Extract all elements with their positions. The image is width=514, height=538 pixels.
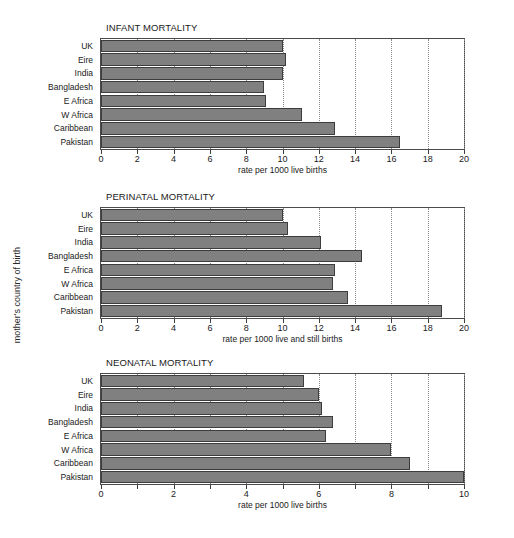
bar-row: [101, 53, 464, 65]
x-tick-label: 2: [171, 489, 176, 499]
bar-w-africa: [101, 443, 391, 455]
plot-area: [100, 373, 465, 485]
chart-title: INFANT MORTALITY: [106, 22, 197, 33]
bar-row: [101, 122, 464, 134]
category-label-pakistan: Pakistan: [60, 472, 93, 482]
category-label-w-africa: W Africa: [61, 279, 93, 289]
category-label-india: India: [75, 403, 93, 413]
x-tick-label: 4: [171, 154, 176, 164]
bar-bangladesh: [101, 81, 264, 93]
bar-row: [101, 81, 464, 93]
category-label-uk: UK: [81, 41, 93, 51]
bar-pakistan: [101, 471, 464, 483]
x-tick-label: 8: [244, 154, 249, 164]
x-tick-label: 12: [314, 154, 324, 164]
bar-uk: [101, 40, 283, 52]
bar-eire: [101, 388, 319, 400]
x-tick-label: 10: [459, 489, 469, 499]
bar-row: [101, 236, 464, 248]
x-tick-label: 2: [135, 323, 140, 333]
x-axis-title: rate per 1000 live and still births: [100, 334, 465, 344]
bar-caribbean: [101, 291, 348, 303]
bar-w-africa: [101, 277, 333, 289]
x-tick-label: 10: [277, 154, 287, 164]
gridline: [464, 208, 465, 318]
x-tick-label: 2: [135, 154, 140, 164]
bar-row: [101, 402, 464, 414]
x-tick-label: 10: [277, 323, 287, 333]
x-tick-label: 16: [386, 154, 396, 164]
category-label-india: India: [75, 237, 93, 247]
bar-series: [101, 374, 464, 484]
bar-row: [101, 430, 464, 442]
category-label-uk: UK: [81, 210, 93, 220]
x-tick-label: 14: [350, 323, 360, 333]
bar-row: [101, 264, 464, 276]
bar-eire: [101, 53, 286, 65]
category-label-bangladesh: Bangladesh: [48, 82, 93, 92]
category-label-india: India: [75, 68, 93, 78]
category-label-caribbean: Caribbean: [54, 458, 93, 468]
bar-e-africa: [101, 264, 335, 276]
x-tick-label: 6: [207, 154, 212, 164]
bar-india: [101, 402, 322, 414]
bar-india: [101, 67, 283, 79]
bar-row: [101, 40, 464, 52]
bar-india: [101, 236, 321, 248]
bar-row: [101, 67, 464, 79]
bar-row: [101, 209, 464, 221]
plot-area: [100, 207, 465, 319]
x-tick-label: 18: [423, 154, 433, 164]
mortality-figure: mother's country of birth INFANT MORTALI…: [0, 0, 514, 538]
category-axis-labels: UKEireIndiaBangladeshE AfricaW AfricaCar…: [0, 207, 96, 319]
x-tick-label: 20: [459, 323, 469, 333]
bar-row: [101, 305, 464, 317]
bar-row: [101, 388, 464, 400]
x-tick-label: 14: [350, 154, 360, 164]
bar-row: [101, 375, 464, 387]
x-tick-label: 12: [314, 323, 324, 333]
bar-row: [101, 443, 464, 455]
bar-row: [101, 416, 464, 428]
x-tick-label: 0: [98, 154, 103, 164]
x-tick-label: 18: [423, 323, 433, 333]
bar-eire: [101, 222, 288, 234]
x-tick-label: 16: [386, 323, 396, 333]
bar-row: [101, 222, 464, 234]
category-label-eire: Eire: [78, 224, 93, 234]
gridline: [464, 39, 465, 149]
bar-row: [101, 250, 464, 262]
plot-area: [100, 38, 465, 150]
bar-bangladesh: [101, 416, 333, 428]
bar-e-africa: [101, 430, 326, 442]
bar-row: [101, 471, 464, 483]
x-tick-label: 4: [171, 323, 176, 333]
x-axis-title: rate per 1000 live births: [100, 500, 465, 510]
x-tick-label: 0: [98, 489, 103, 499]
bar-bangladesh: [101, 250, 362, 262]
x-tick-label: 6: [316, 489, 321, 499]
category-label-uk: UK: [81, 376, 93, 386]
category-label-pakistan: Pakistan: [60, 306, 93, 316]
category-label-pakistan: Pakistan: [60, 137, 93, 147]
bar-uk: [101, 209, 283, 221]
category-axis-labels: UKEireIndiaBangladeshE AfricaW AfricaCar…: [0, 373, 96, 485]
x-tick-label: 20: [459, 154, 469, 164]
category-label-caribbean: Caribbean: [54, 292, 93, 302]
x-tick-label: 8: [244, 323, 249, 333]
category-label-eire: Eire: [78, 55, 93, 65]
bar-row: [101, 108, 464, 120]
bar-pakistan: [101, 136, 400, 148]
bar-row: [101, 291, 464, 303]
category-label-e-africa: E Africa: [64, 431, 93, 441]
bar-series: [101, 39, 464, 149]
bar-series: [101, 208, 464, 318]
category-label-w-africa: W Africa: [61, 445, 93, 455]
gridline: [464, 374, 465, 484]
bar-row: [101, 95, 464, 107]
bar-pakistan: [101, 305, 442, 317]
x-tick-label: 6: [207, 323, 212, 333]
bar-caribbean: [101, 122, 335, 134]
x-axis-title: rate per 1000 live births: [100, 165, 465, 175]
category-label-bangladesh: Bangladesh: [48, 251, 93, 261]
